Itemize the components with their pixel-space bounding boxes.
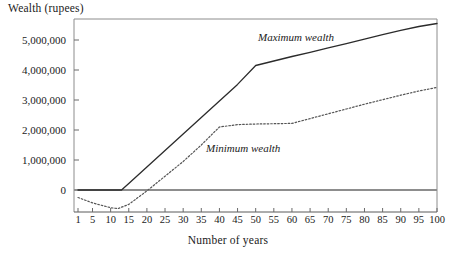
chart-figure: Wealth (rupees) 01,000,0002,000,0003,000… xyxy=(0,0,456,258)
data-series xyxy=(78,24,437,209)
series-label-minimum-wealth: Minimum wealth xyxy=(206,142,280,154)
series-line-maximum-wealth xyxy=(78,24,437,191)
series-label-maximum-wealth: Maximum wealth xyxy=(258,31,334,43)
plot-canvas xyxy=(0,0,456,258)
x-axis-title: Number of years xyxy=(0,234,456,246)
